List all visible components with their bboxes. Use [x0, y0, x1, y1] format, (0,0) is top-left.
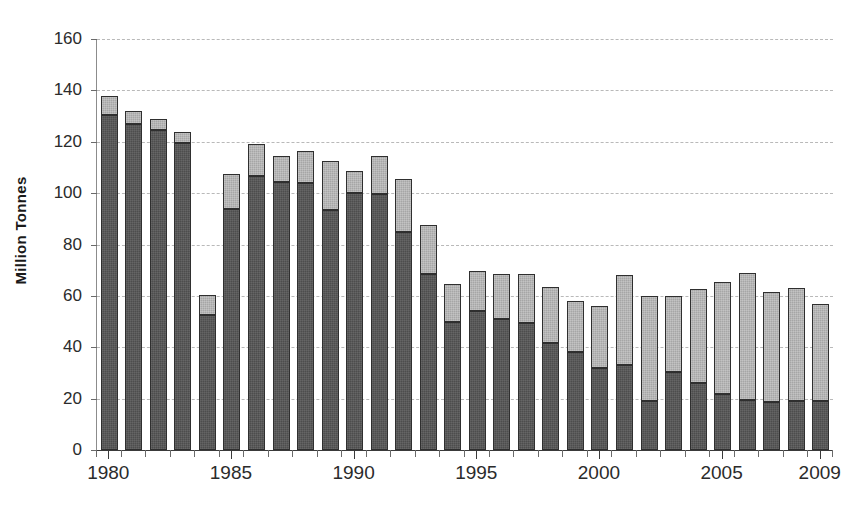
x-axis-tick-mark-major: [354, 450, 355, 459]
bar-segment-lower: [493, 319, 510, 450]
bar-segment-lower: [616, 365, 633, 450]
bar-segment-lower: [641, 401, 658, 450]
bar-segment-lower: [763, 402, 780, 450]
bar-1986: [248, 144, 265, 450]
bar-1985: [223, 174, 240, 450]
bar-segment-lower: [788, 401, 805, 450]
bar-segment-lower: [248, 176, 265, 450]
x-axis-tick-mark-major: [722, 450, 723, 459]
bar-2005: [714, 282, 731, 450]
x-axis-tick-mark: [611, 450, 612, 457]
y-axis-tick-label: 120: [54, 132, 82, 152]
y-axis-title: Million Tonnes: [0, 0, 40, 460]
bar-1991: [371, 156, 388, 450]
bar-segment-lower: [714, 394, 731, 451]
x-axis-tick-mark: [685, 450, 686, 457]
bar-segment-lower: [567, 352, 584, 450]
x-axis-tick-mark: [219, 450, 220, 457]
bar-2007: [763, 292, 780, 450]
bar-1997: [518, 274, 535, 450]
x-axis-tick-mark: [636, 450, 637, 457]
y-axis-tick-labels: 020406080100120140160: [38, 0, 90, 515]
bar-2006: [739, 273, 756, 450]
bar-1998: [542, 287, 559, 450]
bar-segment-upper: [223, 174, 240, 209]
x-axis-tick-mark: [317, 450, 318, 457]
x-axis-tick-mark: [145, 450, 146, 457]
bar-2004: [690, 289, 707, 450]
bar-segment-upper: [248, 144, 265, 176]
x-axis-tick-mark-major: [231, 450, 232, 459]
bar-segment-upper: [469, 271, 486, 311]
bar-segment-upper: [714, 282, 731, 394]
x-axis-tick-mark: [562, 450, 563, 457]
bar-segment-lower: [542, 343, 559, 450]
x-axis-tick-mark: [832, 450, 833, 457]
x-axis-tick-label: 2005: [700, 462, 742, 484]
bar-segment-upper: [812, 304, 829, 402]
x-axis-tick-label: 2000: [578, 462, 620, 484]
x-axis-tick-label: 1990: [332, 462, 374, 484]
bar-segment-upper: [690, 289, 707, 383]
x-axis-tick-label: 2009: [799, 462, 841, 484]
bar-segment-upper: [665, 296, 682, 372]
bar-segment-lower: [371, 194, 388, 450]
bar-segment-upper: [101, 96, 118, 115]
x-axis-tick-mark: [415, 450, 416, 457]
y-axis-tick-label: 140: [54, 80, 82, 100]
bar-1992: [395, 179, 412, 450]
bar-1990: [346, 171, 363, 450]
bar-segment-upper: [493, 274, 510, 319]
bar-1989: [322, 161, 339, 450]
bar-segment-lower: [150, 130, 167, 450]
bar-2008: [788, 288, 805, 450]
bar-1981: [125, 111, 142, 450]
bar-1984: [199, 295, 216, 450]
x-axis-tick-mark: [758, 450, 759, 457]
bar-segment-lower: [322, 210, 339, 450]
bar-1999: [567, 301, 584, 450]
bar-segment-upper: [542, 287, 559, 344]
bar-segment-upper: [125, 111, 142, 124]
x-axis-tick-label: 1980: [87, 462, 129, 484]
bar-1988: [297, 151, 314, 450]
bar-segment-upper: [444, 284, 461, 321]
bar-segment-lower: [174, 143, 191, 450]
bar-segment-lower: [199, 315, 216, 450]
x-axis-tick-mark: [464, 450, 465, 457]
y-axis-tick-label: 40: [63, 337, 82, 357]
x-axis-tick-mark-major: [599, 450, 600, 459]
bar-segment-upper: [616, 275, 633, 365]
bar-segment-upper: [322, 161, 339, 210]
x-axis-tick-mark-major: [476, 450, 477, 459]
bar-segment-lower: [812, 401, 829, 450]
x-axis-tick-label: 1985: [210, 462, 252, 484]
bar-segment-lower: [101, 115, 118, 450]
bar-segment-upper: [395, 179, 412, 232]
bar-2003: [665, 296, 682, 450]
bar-2001: [616, 275, 633, 450]
bar-segment-lower: [739, 400, 756, 450]
y-axis-title-text: Million Tonnes: [12, 176, 29, 284]
bars-layer: [97, 39, 833, 450]
x-axis-tick-mark: [439, 450, 440, 457]
y-axis-tick-label: 80: [63, 235, 82, 255]
bar-segment-upper: [297, 151, 314, 183]
plot-area: [96, 39, 833, 451]
y-axis-tick-label: 60: [63, 286, 82, 306]
x-axis-tick-mark: [807, 450, 808, 457]
bar-segment-upper: [591, 306, 608, 368]
bar-segment-upper: [420, 225, 437, 274]
x-axis-tick-mark: [121, 450, 122, 457]
bar-segment-lower: [444, 322, 461, 450]
bar-segment-lower: [469, 311, 486, 450]
bar-1987: [273, 156, 290, 450]
x-axis-tick-mark: [734, 450, 735, 457]
bar-segment-upper: [788, 288, 805, 401]
bar-segment-lower: [591, 368, 608, 450]
bar-segment-lower: [223, 209, 240, 450]
x-axis-tick-mark: [390, 450, 391, 457]
bar-segment-lower: [346, 193, 363, 450]
bar-2002: [641, 296, 658, 450]
